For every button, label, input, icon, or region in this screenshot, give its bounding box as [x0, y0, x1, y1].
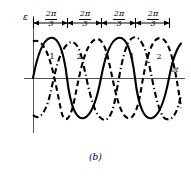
phase-label-4: 1	[127, 52, 137, 61]
phase-label-1: 1	[47, 52, 57, 61]
three-phase-emf-figure: 2π 3 2π 3 2π 3 2π 3	[0, 0, 191, 178]
phase-label-2: 2	[74, 52, 84, 61]
figure-caption: (b)	[0, 152, 191, 162]
y-axis-label: ε	[23, 12, 28, 22]
phase-label-5: 2	[154, 52, 164, 61]
phase-label-3: 3	[101, 52, 111, 61]
x-axis-label: ωt	[170, 66, 179, 74]
